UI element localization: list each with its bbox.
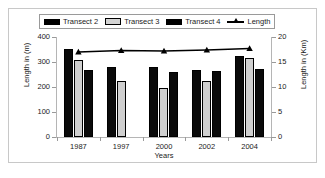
bar-transect-4 bbox=[212, 71, 221, 137]
chart-frame: Transect 2 Transect 3 Transect 4 Length … bbox=[8, 8, 317, 163]
y-axis-left-tick-label: 300 bbox=[37, 58, 50, 66]
y-axis-right-tick bbox=[272, 112, 276, 113]
plot-area: 0100200300400 05101520 19871997200020022… bbox=[57, 37, 271, 137]
y-axis-right-title: Length in (Km) bbox=[300, 40, 308, 89]
y-axis-left-tick bbox=[52, 87, 56, 88]
bar-transect-2 bbox=[107, 67, 116, 138]
y-axis-left-tick-label: 200 bbox=[37, 83, 50, 91]
chart-legend: Transect 2 Transect 3 Transect 4 Length bbox=[39, 14, 275, 29]
legend-label: Transect 4 bbox=[185, 18, 220, 26]
y-axis-right-tick-label: 5 bbox=[278, 108, 282, 116]
x-axis-tick-label: 2002 bbox=[198, 143, 215, 151]
bar-transect-2 bbox=[235, 56, 244, 137]
x-axis-tick bbox=[57, 137, 58, 141]
y-axis-right-tick bbox=[272, 137, 276, 138]
dark-bar-swatch-icon bbox=[44, 19, 60, 25]
bar-transect-2 bbox=[149, 67, 158, 137]
y-axis-right-tick bbox=[272, 87, 276, 88]
legend-item-transect-2: Transect 2 bbox=[44, 18, 98, 26]
y-axis-left-tick-label: 100 bbox=[37, 108, 50, 116]
x-axis-tick bbox=[271, 137, 272, 141]
bar-transect-4 bbox=[169, 72, 178, 137]
x-axis-tick-label: 1987 bbox=[70, 143, 87, 151]
bar-transect-3 bbox=[74, 60, 83, 137]
y-axis-right-tick-label: 20 bbox=[278, 33, 286, 41]
y-axis-right-tick bbox=[272, 37, 276, 38]
x-axis-tick bbox=[143, 137, 144, 141]
legend-item-transect-4: Transect 4 bbox=[166, 18, 220, 26]
bar-group bbox=[143, 37, 186, 137]
bar-transect-3 bbox=[159, 88, 168, 137]
x-axis-tick-label: 2000 bbox=[156, 143, 173, 151]
line-triangle-marker-icon bbox=[227, 18, 244, 25]
legend-label: Transect 3 bbox=[124, 18, 159, 26]
light-bar-swatch-icon bbox=[105, 18, 121, 25]
x-axis-title: Years bbox=[155, 152, 174, 160]
bar-transect-2 bbox=[192, 70, 201, 138]
legend-label: Length bbox=[247, 18, 270, 26]
y-axis-left-tick bbox=[52, 37, 56, 38]
y-axis-right-tick-label: 0 bbox=[278, 133, 282, 141]
x-axis-tick bbox=[228, 137, 229, 141]
y-axis-left-tick bbox=[52, 137, 56, 138]
bar-transect-3 bbox=[245, 58, 254, 138]
y-axis-left-tick-label: 0 bbox=[46, 133, 50, 141]
y-axis-left-tick-label: 400 bbox=[37, 33, 50, 41]
y-axis-left-tick bbox=[52, 62, 56, 63]
legend-item-transect-3: Transect 3 bbox=[105, 18, 159, 26]
y-axis-left-title: Length in (m) bbox=[23, 43, 31, 87]
y-axis-right-tick-label: 10 bbox=[278, 83, 286, 91]
x-axis-tick bbox=[100, 137, 101, 141]
x-axis-tick-label: 2004 bbox=[241, 143, 258, 151]
bar-group bbox=[100, 37, 143, 137]
y-axis-right-tick-label: 15 bbox=[278, 58, 286, 66]
bar-transect-3 bbox=[117, 81, 126, 137]
legend-item-length: Length bbox=[227, 18, 270, 26]
bar-transect-2 bbox=[64, 49, 73, 137]
y-axis-left-tick bbox=[52, 112, 56, 113]
bar-group bbox=[228, 37, 271, 137]
bar-transect-4 bbox=[84, 70, 93, 137]
dark-bar-swatch-icon bbox=[166, 19, 182, 25]
bar-group bbox=[185, 37, 228, 137]
bar-transect-4 bbox=[255, 69, 264, 137]
legend-label: Transect 2 bbox=[63, 18, 98, 26]
bar-transect-3 bbox=[202, 81, 211, 137]
x-axis-tick bbox=[185, 137, 186, 141]
bar-group bbox=[57, 37, 100, 137]
x-axis-tick-label: 1997 bbox=[113, 143, 130, 151]
y-axis-right-tick bbox=[272, 62, 276, 63]
x-axis-line bbox=[56, 137, 272, 138]
